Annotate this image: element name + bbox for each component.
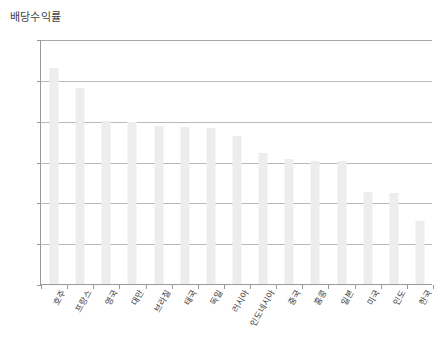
x-tick-label: 미국: [363, 287, 381, 307]
x-tick-label: 한국: [415, 287, 433, 307]
dividend-yield-chart: 배당수익률 0.0%1.0%2.0%3.0%4.0%5.0%6.0% 호주프랑스…: [0, 0, 444, 345]
x-tick-label: 호주: [49, 287, 67, 307]
x-tick-label: 대만: [127, 287, 145, 307]
bar[interactable]: [128, 122, 137, 284]
bar-slot[interactable]: [328, 40, 354, 284]
bar[interactable]: [259, 153, 268, 284]
bar[interactable]: [102, 121, 111, 284]
bar[interactable]: [337, 161, 346, 284]
bar-slot[interactable]: [41, 40, 67, 284]
bar-slot[interactable]: [224, 40, 250, 284]
bar[interactable]: [180, 127, 189, 284]
bar-slot[interactable]: [276, 40, 302, 284]
x-tick-label: 독일: [206, 287, 224, 307]
x-tick-mark: [433, 285, 434, 289]
bar[interactable]: [285, 159, 294, 284]
x-tick-label: 브라질: [150, 287, 172, 314]
bar-slot[interactable]: [146, 40, 172, 284]
bar-slot[interactable]: [67, 40, 93, 284]
bar[interactable]: [389, 193, 398, 284]
bar[interactable]: [363, 192, 372, 284]
bar-slot[interactable]: [355, 40, 381, 284]
bar-slot[interactable]: [302, 40, 328, 284]
bar[interactable]: [50, 68, 59, 284]
bar[interactable]: [232, 136, 241, 284]
bar[interactable]: [154, 126, 163, 284]
bar-slot[interactable]: [119, 40, 145, 284]
x-tick-label: 일본: [337, 287, 355, 307]
bar[interactable]: [76, 88, 85, 284]
bar-slot[interactable]: [381, 40, 407, 284]
x-tick-label: 인도네시아: [246, 287, 276, 328]
x-tick-label: 프랑스: [71, 287, 93, 314]
chart-title: 배당수익률: [10, 8, 61, 24]
bar[interactable]: [206, 128, 215, 284]
bar-slot[interactable]: [198, 40, 224, 284]
x-tick-label: 중국: [284, 287, 302, 307]
bar-slot[interactable]: [407, 40, 433, 284]
x-tick-label: 영국: [101, 287, 119, 307]
bar[interactable]: [415, 221, 424, 284]
bar-slot[interactable]: [250, 40, 276, 284]
x-axis-labels: 호주프랑스영국대만브라질태국독일러시아인도네시아중국홍콩일본미국인도한국: [40, 287, 432, 343]
x-tick-label: 태국: [180, 287, 198, 307]
plot-area: [40, 40, 432, 285]
bar-slot[interactable]: [93, 40, 119, 284]
x-tick-label: 러시아: [228, 287, 250, 314]
x-tick-label: 홍콩: [310, 287, 328, 307]
bar-series: [41, 40, 432, 284]
x-tick-label: 인도: [389, 287, 407, 307]
bar-slot[interactable]: [172, 40, 198, 284]
bar[interactable]: [311, 161, 320, 284]
